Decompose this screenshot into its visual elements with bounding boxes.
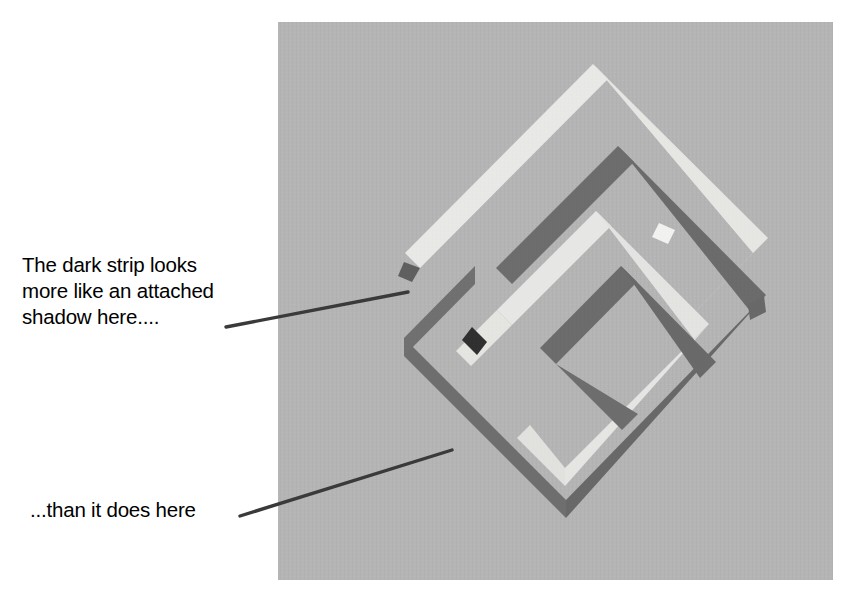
annotation-attached-shadow: The dark strip looks more like an attach… xyxy=(22,252,272,330)
illusion-figure: The dark strip looks more like an attach… xyxy=(0,0,850,610)
annotation-than-it-does-here: ...than it does here xyxy=(30,497,290,523)
